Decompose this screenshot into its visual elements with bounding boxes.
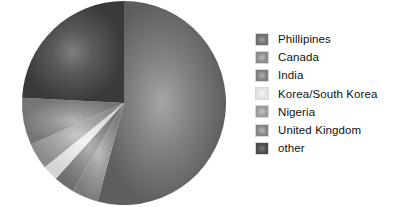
legend-swatch-korea-south-korea [255, 87, 269, 100]
pie-chart-svg [0, 0, 250, 207]
legend-item-india[interactable]: India [255, 66, 411, 84]
pie-chart-area [0, 0, 250, 207]
legend-label-india: India [278, 66, 303, 84]
pie-slice-group [22, 1, 226, 205]
legend-item-other[interactable]: other [255, 139, 411, 157]
legend-swatch-india [255, 69, 269, 82]
legend-label-phillipines: Phillipines [278, 30, 331, 48]
pie-slice-other[interactable] [22, 1, 124, 103]
pie-chart-figure: Phillipines Canada India Korea/South Kor… [0, 0, 411, 207]
legend-label-canada: Canada [278, 48, 319, 66]
legend-swatch-united-kingdom [255, 124, 269, 137]
legend-item-canada[interactable]: Canada [255, 48, 411, 66]
legend-label-other: other [278, 139, 305, 157]
chart-legend: Phillipines Canada India Korea/South Kor… [255, 30, 411, 157]
legend-item-nigeria[interactable]: Nigeria [255, 103, 411, 121]
legend-label-united-kingdom: United Kingdom [278, 121, 361, 139]
legend-label-korea-south-korea: Korea/South Korea [278, 85, 378, 103]
legend-swatch-phillipines [255, 33, 269, 46]
legend-item-united-kingdom[interactable]: United Kingdom [255, 121, 411, 139]
legend-swatch-other [255, 142, 269, 155]
legend-item-korea-south-korea[interactable]: Korea/South Korea [255, 85, 411, 103]
legend-label-nigeria: Nigeria [278, 103, 315, 121]
legend-swatch-nigeria [255, 105, 269, 118]
legend-swatch-canada [255, 51, 269, 64]
legend-item-phillipines[interactable]: Phillipines [255, 30, 411, 48]
